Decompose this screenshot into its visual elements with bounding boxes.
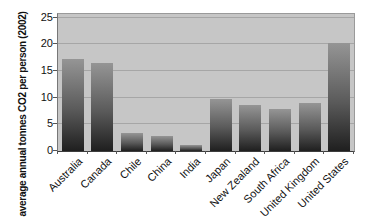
x-tick-mark	[323, 151, 324, 154]
bar-japan	[210, 99, 232, 151]
y-tick-label-15: 15	[27, 63, 53, 77]
x-tick-mark	[175, 151, 176, 154]
y-tick-label-5: 5	[27, 116, 53, 130]
y-tick-label-10: 10	[27, 90, 53, 104]
x-tick-mark	[205, 151, 206, 154]
y-tick-mark-5	[53, 123, 57, 124]
bar-chile	[121, 133, 143, 151]
y-tick-mark-20	[53, 43, 57, 44]
y-tick-label-25: 25	[27, 10, 53, 24]
gridline-25	[58, 17, 354, 18]
x-tick-mark	[264, 151, 265, 154]
bar-india	[180, 145, 202, 151]
y-tick-label-20: 20	[27, 36, 53, 50]
x-tick-mark	[294, 151, 295, 154]
bar-united-kingdom	[299, 103, 321, 152]
bar-canada	[91, 63, 113, 151]
bar-australia	[62, 59, 84, 151]
x-tick-mark	[87, 151, 88, 154]
x-tick-mark	[353, 151, 354, 154]
bar-south-africa	[269, 109, 291, 151]
bar-new-zealand	[239, 105, 261, 151]
x-tick-mark	[235, 151, 236, 154]
bar-china	[151, 136, 173, 151]
co2-bar-chart: average annual tonnes CO2 per person (20…	[0, 0, 370, 224]
bar-united-states	[328, 43, 350, 151]
x-tick-mark	[116, 151, 117, 154]
y-tick-mark-15	[53, 70, 57, 71]
y-tick-label-0: 0	[27, 143, 53, 157]
gridline-20	[58, 43, 354, 44]
y-tick-mark-10	[53, 97, 57, 98]
y-tick-mark-25	[53, 17, 57, 18]
plot-area	[57, 13, 355, 152]
x-tick-mark	[146, 151, 147, 154]
x-tick-mark	[57, 151, 58, 154]
